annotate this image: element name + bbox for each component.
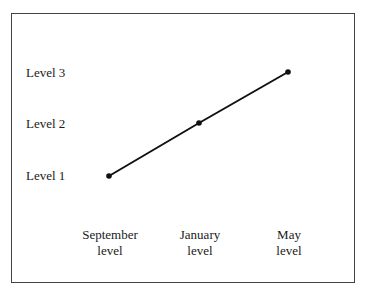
data-point-may [285, 69, 291, 75]
x-tick-january: January level [160, 227, 240, 259]
x-tick-line2: level [70, 243, 150, 259]
x-tick-line2: level [249, 243, 329, 259]
x-tick-september: September level [70, 227, 150, 259]
x-tick-line1: May [249, 227, 329, 243]
data-point-september [106, 173, 112, 179]
x-tick-line2: level [160, 243, 240, 259]
data-point-january [196, 120, 202, 126]
x-tick-may: May level [249, 227, 329, 259]
x-tick-line1: September [70, 227, 150, 243]
x-tick-line1: January [160, 227, 240, 243]
